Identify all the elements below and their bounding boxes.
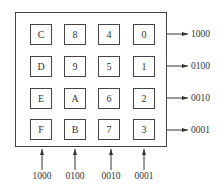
column-input-label-3: 0001 (129, 171, 159, 181)
column-input-label-0: 1000 (27, 171, 57, 181)
row-output-label-0: 1000 (191, 29, 210, 39)
row-output-label-1: 0100 (191, 61, 210, 71)
column-input-label-1: 0100 (60, 171, 90, 181)
row-output-label-2: 0010 (191, 93, 210, 103)
column-input-label-2: 0010 (96, 171, 126, 181)
row-output-label-3: 0001 (191, 125, 210, 135)
